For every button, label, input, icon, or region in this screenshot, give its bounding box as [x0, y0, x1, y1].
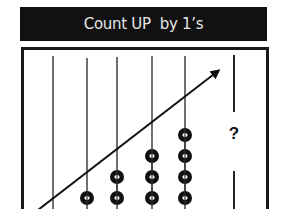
- rods: [53, 56, 185, 209]
- count-up-arrow-icon: [38, 71, 218, 209]
- abacus-diagram: [0, 0, 285, 209]
- unknown-count-label: ?: [226, 124, 242, 144]
- beads: [80, 128, 192, 205]
